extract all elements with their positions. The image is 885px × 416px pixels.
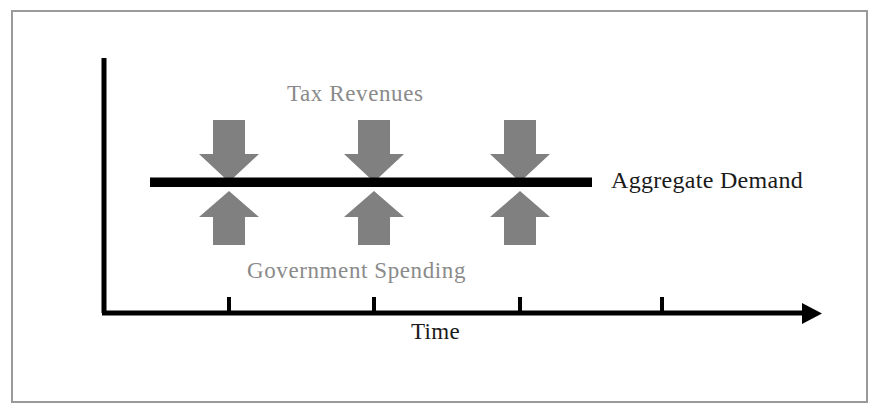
tax-revenue-arrow-down-3 (490, 120, 550, 182)
aggregate-demand-line (150, 178, 592, 188)
tax-revenue-arrows-group (199, 120, 550, 182)
tax-revenues-label: Tax Revenues (287, 82, 424, 105)
tax-revenue-arrow-down-2 (344, 120, 404, 182)
x-axis-arrowhead-icon (802, 303, 822, 324)
government-spending-label: Government Spending (247, 259, 466, 282)
aggregate-demand-label: Aggregate Demand (611, 168, 803, 192)
time-axis-label: Time (411, 320, 460, 343)
government-spending-arrow-up-2 (344, 191, 404, 245)
figure-root: Tax Revenues Government Spending Aggrega… (0, 0, 885, 416)
government-spending-arrows-group (199, 191, 550, 245)
government-spending-arrow-up-1 (199, 191, 259, 245)
government-spending-arrow-up-3 (490, 191, 550, 245)
tax-revenue-arrow-down-1 (199, 120, 259, 182)
diagram-canvas (0, 0, 885, 416)
